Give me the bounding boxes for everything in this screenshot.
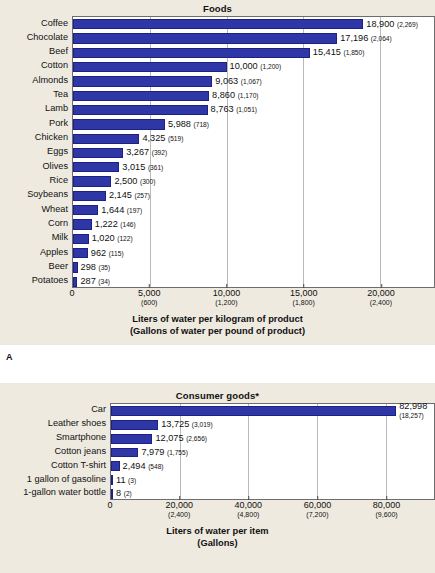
bar-value-secondary: (1,755) <box>167 449 188 456</box>
bar <box>73 76 212 86</box>
bar <box>111 448 138 458</box>
bar-row: 17,196 (2,064) <box>73 31 434 45</box>
bar-value-secondary: (718) <box>194 121 209 128</box>
foods-x-axis: 05,000(600)10,000(1,200)15,000(1,800)20,… <box>72 288 435 314</box>
bar <box>111 406 396 416</box>
tick-mark <box>304 284 305 288</box>
bar-value-label: 8,763 (1,051) <box>211 105 257 114</box>
tick-mark <box>149 284 150 288</box>
x-axis-tick: 10,000(1,200) <box>213 288 241 307</box>
bar-row: 1,020 (122) <box>73 232 434 246</box>
bar <box>111 475 113 485</box>
consumer-goods-plot-area: 82,998(18,257)13,725 (3,019)12,075 (2,65… <box>110 403 435 500</box>
bar-value-secondary: (3) <box>128 477 136 484</box>
bar <box>73 33 337 43</box>
bar <box>73 105 208 115</box>
x-axis-tick: 40,000(4,800) <box>235 500 263 519</box>
category-label: Almonds <box>0 73 68 87</box>
bar-value-secondary: (361) <box>148 164 163 171</box>
bar-value-primary: 5,988 <box>168 119 191 129</box>
consumer-goods-chart-body: CarLeather shoesSmartphoneCotton jeansCo… <box>0 403 435 500</box>
consumer-goods-axis-spacer <box>0 500 110 526</box>
bar-value-secondary: (34) <box>98 278 110 285</box>
consumer-goods-category-axis: CarLeather shoesSmartphoneCotton jeansCo… <box>0 403 110 500</box>
bar-value-secondary: (1,170) <box>238 92 259 99</box>
category-label: Apples <box>0 245 68 259</box>
bar-value-secondary: (35) <box>98 264 110 271</box>
category-label: Lamb <box>0 102 68 116</box>
bar-value-primary: 1,644 <box>101 205 124 215</box>
tick-mark <box>226 284 227 288</box>
bar-value-secondary: (392) <box>152 149 167 156</box>
bar <box>73 191 106 201</box>
bar-value-label: 9,063 (1,067) <box>215 77 261 86</box>
bar-value-label: 11 (3) <box>116 476 136 485</box>
bar-row: 2,145 (257) <box>73 189 434 203</box>
category-label: 1 gallon of gasoline <box>0 472 106 486</box>
bar-value-secondary: (146) <box>120 221 135 228</box>
x-axis-tick: 60,000(7,200) <box>304 500 332 519</box>
bar-value-secondary: (115) <box>109 250 124 257</box>
consumer-goods-x-axis-title: Liters of water per item <box>0 526 435 538</box>
tick-label: 5,000 <box>138 288 161 298</box>
x-axis-tick: 0 <box>69 288 74 298</box>
bar-value-primary: 2,494 <box>123 461 146 471</box>
bar <box>73 277 77 287</box>
bar <box>73 176 111 186</box>
bar-value-secondary: (1,850) <box>343 49 364 56</box>
consumer-goods-x-axis-subtitle: (Gallons) <box>0 538 435 550</box>
x-axis-tick: 0 <box>107 500 112 510</box>
bar-value-secondary: (1,051) <box>236 106 257 113</box>
bar <box>73 19 363 29</box>
category-label: Chocolate <box>0 30 68 44</box>
category-label: 1-gallon water bottle <box>0 486 106 500</box>
bar-value-primary: 13,725 <box>161 419 189 429</box>
category-label: Potatoes <box>0 274 68 288</box>
tick-sublabel: (1,200) <box>213 298 241 307</box>
category-label: Leather shoes <box>0 417 106 431</box>
bar-row: 12,075 (2,656) <box>111 432 434 446</box>
bar-row: 8,860 (1,170) <box>73 89 434 103</box>
tick-sublabel: (2,400) <box>165 510 193 519</box>
category-label: Olives <box>0 159 68 173</box>
foods-plot-area: 18,900 (2,269)17,196 (2,064)15,415 (1,85… <box>72 16 435 288</box>
bar-value-label: 12,075 (2,656) <box>155 434 207 443</box>
tick-label: 20,000 <box>165 500 193 510</box>
bar-value-label: 2,494 (548) <box>123 462 164 471</box>
bar-value-primary: 8 <box>116 488 121 498</box>
tick-label: 20,000 <box>367 288 395 298</box>
x-axis-tick: 20,000(2,400) <box>165 500 193 519</box>
category-label: Tea <box>0 88 68 102</box>
bar-value-secondary: (2) <box>124 490 132 497</box>
bar-value-primary: 2,500 <box>114 176 137 186</box>
tick-sublabel: (4,800) <box>235 510 263 519</box>
tick-sublabel: (2,400) <box>367 298 395 307</box>
bar-value-primary: 962 <box>91 248 106 258</box>
bar-value-secondary: (300) <box>140 178 155 185</box>
bar-value-secondary: (548) <box>148 463 163 470</box>
bar-row: 15,415 (1,850) <box>73 46 434 60</box>
bar-value-primary: 7,979 <box>141 447 164 457</box>
bar-value-label: 3,015 (361) <box>122 163 163 172</box>
bar-value-label: 962 (115) <box>91 249 124 258</box>
category-label: Rice <box>0 173 68 187</box>
tick-mark <box>179 496 180 500</box>
tick-label: 60,000 <box>304 500 332 510</box>
foods-chart-panel: Foods CoffeeChocolateBeefCottonAlmondsTe… <box>0 0 435 345</box>
x-axis-tick: 20,000(2,400) <box>367 288 395 307</box>
bar <box>73 219 92 229</box>
bar-value-primary: 9,063 <box>215 76 238 86</box>
bar <box>73 162 119 172</box>
bar-value-primary: 1,222 <box>95 219 118 229</box>
tick-label: 80,000 <box>373 500 401 510</box>
bar <box>73 234 89 244</box>
bar-value-primary: 2,145 <box>109 190 132 200</box>
bar-value-secondary: (2,269) <box>397 21 418 28</box>
bar-row: 11 (3) <box>111 473 434 487</box>
tick-sublabel: (600) <box>138 298 161 307</box>
bar-value-primary: 298 <box>81 262 96 272</box>
bar-row: 9,063 (1,067) <box>73 74 434 88</box>
x-axis-tick: 15,000(1,800) <box>290 288 318 307</box>
bar-value-secondary: (257) <box>135 192 150 199</box>
bar-value-primary: 10,000 <box>230 61 258 71</box>
